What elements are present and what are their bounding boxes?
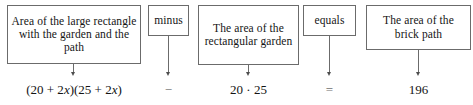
label-box-equals: equals [303,5,356,36]
formula-segment: (20 + 2 [26,82,64,97]
formula-minus-operator: − [148,82,189,98]
diagram-column-equals: equals = [303,0,356,105]
arrow-down-icon [71,72,75,76]
connector-line [168,36,169,73]
arrow-down-icon [246,72,250,76]
arrow-down-icon [327,72,331,76]
label-box-text: minus [152,14,185,27]
label-box-rectangular-garden: The area of the rectangular garden [198,5,299,65]
formula-rectangular-garden: 20 · 25 [198,82,299,98]
label-box-brick-path: The area of the brick path [366,5,471,50]
formula-brick-path: 196 [366,82,471,98]
diagram-column-brick-path: The area of the brick path 196 [366,0,471,105]
label-box-large-rectangle: Area of the large rectangle with the gar… [7,5,141,64]
label-box-text: The area of the brick path [370,14,467,40]
diagram-column-minus: minus − [148,0,189,105]
word-equation-diagram: Area of the large rectangle with the gar… [0,0,473,105]
formula-equals-operator: = [303,82,356,98]
label-box-minus: minus [148,5,189,36]
label-box-text: Area of the large rectangle with the gar… [11,15,137,55]
arrow-down-icon [166,72,170,76]
connector-line [329,36,330,73]
formula-large-rectangle: (20 + 2x)(25 + 2x) [7,82,141,98]
label-box-text: equals [307,14,352,27]
diagram-column-large-rectangle: Area of the large rectangle with the gar… [7,0,141,105]
label-box-text: The area of the rectangular garden [202,22,295,48]
formula-segment: )(25 + 2 [70,82,112,97]
formula-segment: ) [117,82,121,97]
connector-line [418,50,419,73]
diagram-column-rectangular-garden: The area of the rectangular garden 20 · … [198,0,299,105]
arrow-down-icon [416,72,420,76]
